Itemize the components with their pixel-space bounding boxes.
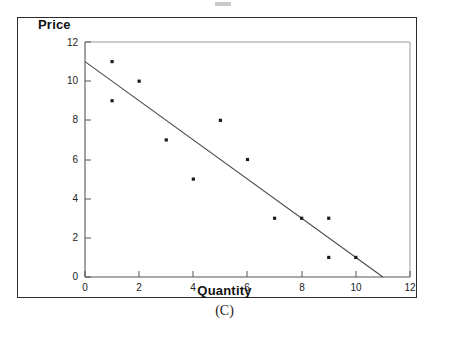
- y-tick-label: 6: [72, 154, 78, 165]
- trend-line: [85, 62, 383, 277]
- scatter-point: [165, 138, 168, 141]
- y-tick-label: 0: [72, 271, 78, 282]
- scatter-point: [138, 80, 141, 83]
- y-tick-label: 4: [72, 193, 78, 204]
- y-tick-labels: 0 2 4 6 8 10 12: [67, 37, 79, 282]
- y-tick-label: 2: [72, 232, 78, 243]
- scatter-point: [273, 217, 276, 220]
- scatter-point: [219, 119, 222, 122]
- x-axis-label: Quantity: [0, 283, 449, 298]
- y-tick-label: 8: [72, 114, 78, 125]
- y-axis: [85, 42, 91, 277]
- figure-caption: (C): [0, 303, 449, 319]
- scatter-point: [327, 256, 330, 259]
- y-tick-label: 12: [67, 37, 79, 48]
- figure-panel: Price: [0, 0, 449, 337]
- y-tick-label: 10: [67, 75, 79, 86]
- scatter-point: [354, 256, 357, 259]
- scatter-point: [327, 217, 330, 220]
- scatter-point: [192, 177, 195, 180]
- scatter-point-group: [110, 60, 357, 259]
- scatter-point: [300, 217, 303, 220]
- scatter-point: [110, 60, 113, 63]
- x-axis: [85, 271, 410, 277]
- scatter-point: [110, 99, 113, 102]
- scatter-point: [246, 158, 249, 161]
